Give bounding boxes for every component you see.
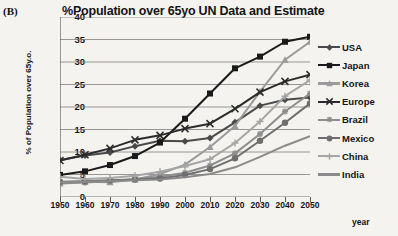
x-tick-mark — [260, 197, 261, 202]
x-tick-mark — [185, 197, 186, 202]
x-tick-mark — [210, 197, 211, 202]
data-point-diamond — [132, 143, 139, 150]
data-point-diamond — [182, 138, 189, 145]
x-axis-label: year — [352, 217, 370, 227]
legend-item-india[interactable]: India — [318, 165, 396, 183]
legend-swatch-asterisk-icon — [318, 114, 340, 126]
data-point-square — [282, 39, 288, 45]
figure-panel-b: (B) %Population over 65yo UN Data and Es… — [0, 0, 398, 236]
x-tick-mark — [310, 197, 311, 202]
x-tick-mark — [85, 197, 86, 202]
legend-swatch-none-icon — [318, 168, 340, 180]
legend-label: USA — [342, 42, 362, 53]
data-point-square — [182, 116, 188, 122]
legend-marker-plus-icon — [325, 152, 334, 161]
plot-area — [60, 17, 310, 197]
legend-item-korea[interactable]: Korea — [318, 74, 396, 92]
data-series-group — [60, 34, 310, 187]
legend-marker-asterisk-icon — [325, 115, 334, 124]
legend-marker-square-icon — [325, 61, 334, 70]
data-point-square — [132, 153, 138, 159]
legend-swatch-x-icon — [318, 96, 340, 108]
legend-item-mexico[interactable]: Mexico — [318, 129, 396, 147]
data-point-square — [107, 162, 113, 168]
data-point-circle — [282, 120, 288, 126]
data-point-square — [327, 63, 332, 68]
legend-item-brazil[interactable]: Brazil — [318, 111, 396, 129]
legend-label: India — [342, 169, 364, 180]
x-tick-mark — [285, 197, 286, 202]
data-point-circle — [327, 135, 333, 141]
legend-marker-circle-icon — [325, 134, 334, 143]
panel-label: (B) — [3, 5, 18, 17]
legend-swatch-diamond-icon — [318, 41, 340, 53]
legend-marker-triangle-icon — [325, 79, 334, 88]
legend-item-china[interactable]: China — [318, 147, 396, 165]
legend-swatch-circle-icon — [318, 132, 340, 144]
x-tick-mark — [110, 197, 111, 202]
legend-label: Europe — [342, 96, 375, 107]
legend-item-europe[interactable]: Europe — [318, 93, 396, 111]
legend-label: Korea — [342, 78, 369, 89]
data-point-circle — [207, 166, 213, 172]
data-point-square — [232, 65, 238, 71]
data-point-square — [257, 54, 263, 60]
legend-swatch-plus-icon — [318, 150, 340, 162]
legend-label: China — [342, 151, 368, 162]
legend-marker-diamond-icon — [325, 43, 334, 52]
x-tick-mark — [60, 197, 61, 202]
data-point-circle — [257, 138, 263, 144]
series-japan — [60, 34, 310, 178]
x-tick-mark — [135, 197, 136, 202]
legend-item-japan[interactable]: Japan — [318, 56, 396, 74]
data-point-circle — [232, 155, 238, 161]
data-point-square — [157, 140, 163, 146]
data-point-square — [307, 34, 310, 40]
x-tick-mark — [160, 197, 161, 202]
legend-label: Japan — [342, 60, 369, 71]
x-tick-mark — [235, 197, 236, 202]
data-point-triangle — [326, 80, 332, 86]
legend-label: Brazil — [342, 114, 368, 125]
legend-line — [318, 173, 340, 175]
legend-item-usa[interactable]: USA — [318, 38, 396, 56]
legend-marker-x-icon — [325, 97, 334, 106]
legend-swatch-triangle-icon — [318, 77, 340, 89]
data-point-diamond — [326, 44, 332, 50]
data-point-square — [82, 168, 88, 174]
legend-label: Mexico — [342, 133, 374, 144]
y-axis-label: % of Population over 65y.o. — [24, 18, 33, 188]
data-point-square — [207, 91, 213, 97]
legend: USAJapanKoreaEuropeBrazilMexicoChinaIndi… — [318, 38, 396, 184]
legend-swatch-square-icon — [318, 59, 340, 71]
